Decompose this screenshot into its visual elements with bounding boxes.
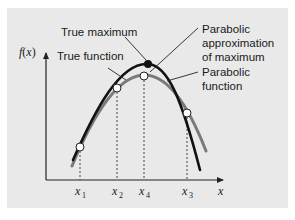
label-parabolic-function-1: Parabolic	[202, 66, 250, 78]
point-x3	[183, 109, 191, 117]
svg-text:1: 1	[82, 191, 86, 200]
svg-text:x: x	[74, 184, 81, 198]
point-x4	[140, 72, 148, 80]
label-parabolic-function-2: function	[202, 80, 242, 92]
true-maximum-point	[144, 60, 152, 68]
tick-x4: x4	[138, 184, 150, 200]
svg-text:2: 2	[119, 191, 123, 200]
label-true-maximum: True maximum	[61, 26, 137, 38]
label-parabolic-approx-1: Parabolic	[202, 23, 250, 35]
label-true-function: True function	[57, 50, 124, 62]
x-axis-label: x	[217, 184, 224, 198]
parabolic-interpolation-diagram: f(x) x x1 x2 x4 x3 True maximum True fun…	[0, 0, 295, 220]
tick-x3: x3	[181, 184, 193, 200]
y-axis-label: f(x)	[19, 45, 36, 59]
svg-text:x: x	[111, 184, 118, 198]
svg-text:3: 3	[189, 191, 193, 200]
svg-text:x: x	[138, 184, 145, 198]
svg-text:4: 4	[146, 191, 150, 200]
label-parabolic-approx-2: approximation	[202, 37, 274, 49]
label-parabolic-approx-3: of maximum	[202, 51, 265, 63]
tick-x1: x1	[74, 184, 86, 200]
true-function-curve	[73, 64, 200, 170]
dashed-guides	[80, 76, 187, 180]
tick-x2: x2	[111, 184, 123, 200]
svg-text:x: x	[181, 184, 188, 198]
point-x2	[113, 84, 121, 92]
point-x1	[76, 143, 84, 151]
